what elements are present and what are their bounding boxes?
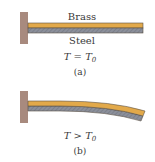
condition-b-sub: 0 [92, 135, 96, 143]
condition-b: T > T0 [64, 131, 97, 142]
caption-b: (b) [74, 146, 87, 156]
steel-strip-a [28, 28, 143, 33]
wall-b [20, 91, 28, 123]
bimetallic-strip-diagram: Brass Steel T = T0 (a) T > T0 (b) [0, 0, 155, 162]
condition-a-sub: 0 [92, 56, 96, 64]
brass-strip-a [28, 23, 143, 28]
brass-label: Brass [68, 12, 96, 22]
condition-b-var: T [64, 130, 71, 141]
caption-a: (a) [74, 67, 86, 77]
panel-b-graphics [20, 91, 145, 123]
condition-a: T = T0 [64, 52, 97, 63]
steel-label: Steel [69, 36, 95, 46]
wall-a [20, 12, 28, 44]
condition-b-op: > [74, 130, 82, 141]
condition-a-var: T [64, 51, 71, 62]
condition-a-op: = [74, 51, 82, 62]
